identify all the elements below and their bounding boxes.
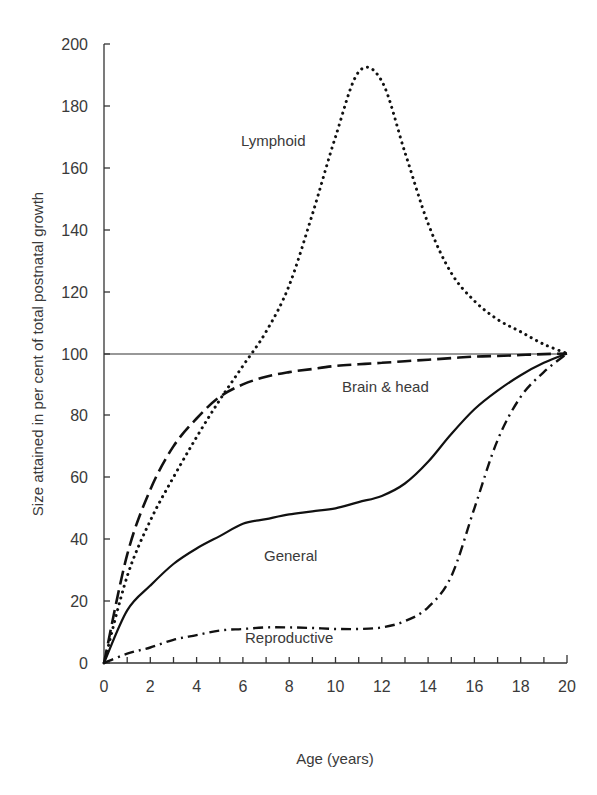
x-tick-label: 18 (512, 678, 530, 695)
x-tick-label: 6 (238, 678, 247, 695)
general-label: General (264, 547, 317, 564)
y-axis: 0 20 40 60 80 100 120 140 160 180 200 Si… (29, 36, 110, 672)
x-axis-title: Age (years) (296, 750, 374, 767)
lymphoid-curve (104, 67, 567, 663)
y-tick-label: 140 (61, 222, 88, 239)
y-tick-label: 40 (70, 531, 88, 548)
y-tick-label: 80 (70, 407, 88, 424)
x-tick-label: 10 (327, 678, 345, 695)
curves (104, 67, 567, 663)
y-tick-label: 0 (79, 655, 88, 672)
y-tick-label: 200 (61, 36, 88, 53)
y-tick-label: 20 (70, 593, 88, 610)
y-tick-label: 60 (70, 469, 88, 486)
x-tick-label: 20 (558, 678, 576, 695)
x-tick-label: 14 (419, 678, 437, 695)
y-tick-label: 120 (61, 284, 88, 301)
x-tick-label: 12 (373, 678, 391, 695)
lymphoid-label: Lymphoid (241, 132, 305, 149)
y-tick-label: 100 (61, 346, 88, 363)
y-tick-label: 180 (61, 98, 88, 115)
x-axis: 0 2 4 6 8 10 12 14 16 18 20 Age (years) (100, 655, 576, 767)
y-axis-title: Size attained in per cent of total postn… (29, 192, 46, 516)
reproductive-label: Reproductive (245, 629, 333, 646)
x-tick-label: 2 (146, 678, 155, 695)
brain-head-label: Brain & head (342, 378, 429, 395)
x-tick-label: 8 (285, 678, 294, 695)
general-curve (104, 354, 567, 664)
x-tick-label: 16 (466, 678, 484, 695)
growth-curves-chart: 0 20 40 60 80 100 120 140 160 180 200 Si… (0, 0, 597, 795)
x-tick-label: 4 (192, 678, 201, 695)
x-tick-label: 0 (100, 678, 109, 695)
y-tick-label: 160 (61, 160, 88, 177)
